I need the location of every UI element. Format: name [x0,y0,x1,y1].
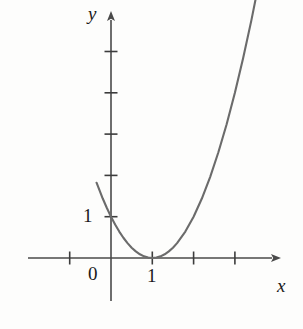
parabola-figure: y x 0 1 1 [0,0,303,329]
x-tick-label-1: 1 [147,266,157,285]
y-tick-label-1: 1 [83,206,93,225]
origin-label: 0 [88,264,98,283]
y-axis-label: y [88,4,96,23]
parabola-curve [97,0,260,258]
x-axis-label: x [277,276,285,295]
